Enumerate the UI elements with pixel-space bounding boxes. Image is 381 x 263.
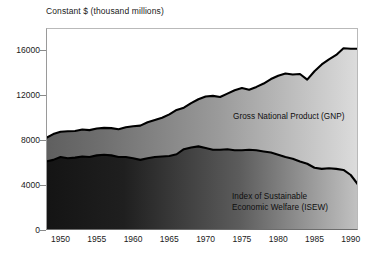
chart-figure: Constant $ (thousand millions) 040008000… <box>0 0 381 263</box>
x-tick-label: 1985 <box>305 234 324 244</box>
y-tick-label: 8000 <box>21 135 40 145</box>
x-tick-label: 1955 <box>87 234 106 244</box>
x-axis-tick-labels: 195019551960196519701975198019851990 <box>46 233 358 249</box>
y-tick-label: 16000 <box>16 45 40 55</box>
x-tick-label: 1975 <box>232 234 251 244</box>
isew-series-label: Index of Sustainable Economic Welfare (I… <box>232 192 328 213</box>
axis-title: Constant $ (thousand millions) <box>46 6 164 16</box>
x-tick-label: 1970 <box>196 234 215 244</box>
x-tick-label: 1965 <box>160 234 179 244</box>
y-tick-label: 4000 <box>21 180 40 190</box>
y-tick-label: 12000 <box>16 90 40 100</box>
x-tick-label: 1990 <box>341 234 360 244</box>
x-tick-label: 1980 <box>269 234 288 244</box>
y-tick-label: 0 <box>35 225 40 235</box>
gnp-series-label: Gross National Product (GNP) <box>233 112 345 123</box>
x-tick-label: 1960 <box>124 234 143 244</box>
y-axis-tick-labels: 0400080001200016000 <box>0 28 40 230</box>
x-tick-label: 1950 <box>51 234 70 244</box>
y-tick-mark <box>40 230 46 231</box>
